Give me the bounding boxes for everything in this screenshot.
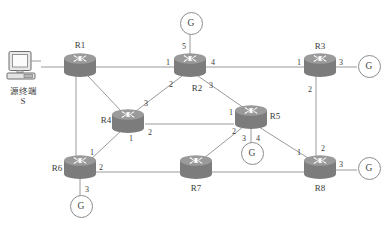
terminal-sublabel: S (20, 96, 25, 106)
port-label-r2-5: 5 (182, 42, 186, 51)
router-r4[interactable] (108, 109, 148, 134)
port-label-r4-2: 2 (148, 128, 152, 137)
port-label-r4-1: 1 (129, 134, 133, 143)
router-label-r6: R6 (52, 163, 63, 173)
port-label-r3-3: 3 (339, 58, 343, 67)
port-label-r8-2: 2 (321, 144, 325, 153)
port-label-r8-3: 3 (339, 160, 343, 169)
router-label-r2: R2 (192, 83, 203, 93)
router-r5[interactable] (231, 105, 271, 130)
link-R2-R4 (136, 76, 182, 111)
router-label-r8: R8 (315, 183, 326, 193)
gateway-node-g-r2[interactable]: G (180, 12, 203, 35)
port-label-r2-3: 3 (209, 81, 213, 90)
port-label-r2-2: 2 (169, 80, 173, 89)
network-topology-diagram: R1 R2 R3 R4 (0, 0, 386, 227)
router-label-r1: R1 (75, 40, 86, 50)
port-label-r4-3: 3 (144, 99, 148, 108)
router-r2[interactable] (170, 53, 210, 78)
link-R5-R7 (204, 127, 243, 158)
port-label-r6-3: 3 (85, 185, 89, 194)
router-r6[interactable] (60, 155, 100, 180)
router-r1[interactable] (60, 53, 100, 78)
gateway-node-g-r6[interactable]: G (70, 195, 93, 218)
port-label-r2-1: 1 (166, 58, 170, 67)
gateway-node-g-r8[interactable]: G (358, 157, 381, 180)
gateway-node-g-r5[interactable]: G (241, 142, 264, 165)
router-r8[interactable] (300, 155, 340, 180)
router-r3[interactable] (300, 53, 340, 78)
port-label-r5-4: 4 (256, 134, 260, 143)
port-label-r6-2: 2 (99, 163, 103, 172)
router-label-r5: R5 (270, 111, 281, 121)
port-label-r6-1: 1 (90, 148, 94, 157)
port-label-r8-1: 1 (297, 148, 301, 157)
port-label-r5-2: 2 (232, 127, 236, 136)
link-R1-R4 (88, 76, 122, 112)
router-label-r4: R4 (101, 115, 112, 125)
port-label-r3-2: 2 (308, 85, 312, 94)
router-label-r3: R3 (315, 41, 326, 51)
link-R2-R5 (198, 76, 244, 108)
terminal-label: 源终端 (10, 84, 37, 96)
router-label-r7: R7 (191, 183, 202, 193)
port-label-r5-3: 3 (242, 134, 246, 143)
gateway-node-g-r3[interactable]: G (358, 55, 381, 78)
router-r7[interactable] (176, 155, 216, 180)
port-label-r5-1: 1 (229, 108, 233, 117)
port-label-r2-4: 4 (211, 58, 215, 67)
desktop-computer-icon[interactable] (5, 50, 41, 84)
port-label-r3-1: 1 (297, 58, 301, 67)
